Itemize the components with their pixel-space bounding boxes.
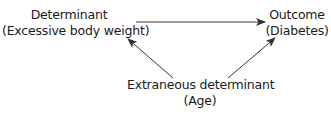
edge-extraneous-to-determinant-arrow <box>128 39 173 78</box>
node-extraneous-subtitle: (Age) <box>127 93 273 109</box>
edge-extraneous-to-outcome-arrow <box>228 38 275 78</box>
node-determinant: Determinant (Excessive body weight) <box>2 7 136 39</box>
node-extraneous-determinant: Extraneous determinant (Age) <box>127 77 273 109</box>
node-determinant-title: Determinant <box>2 7 136 23</box>
node-outcome-subtitle: (Diabetes) <box>262 23 331 39</box>
node-determinant-subtitle: (Excessive body weight) <box>2 23 136 39</box>
node-extraneous-title: Extraneous determinant <box>127 77 273 93</box>
node-outcome-title: Outcome <box>262 7 331 23</box>
node-outcome: Outcome (Diabetes) <box>262 7 331 39</box>
